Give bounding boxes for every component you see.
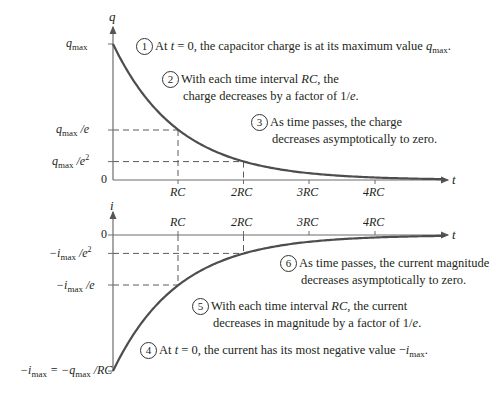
ytick-neg-imax: −imax = −qmax /RC <box>20 364 112 378</box>
xtick-3rc-top: 3RC <box>297 186 318 199</box>
xtick-4rc-bottom: 4RC <box>363 216 384 229</box>
xtick-rc-top: RC <box>170 186 185 199</box>
xtick-3rc-bottom: 3RC <box>297 216 318 229</box>
xtick-2rc-top: 2RC <box>231 186 252 199</box>
charge-curve <box>113 44 445 179</box>
step-3-badge: 3 <box>251 114 268 131</box>
ytick-neg-imax-over-e: −imax /e <box>56 279 95 293</box>
step-6-badge: 6 <box>280 255 297 272</box>
t-axis-label-bottom: t <box>452 228 456 241</box>
note-6: 6As time passes, the current magnitude d… <box>280 256 489 287</box>
diagram-canvas <box>0 0 494 399</box>
xtick-4rc-top: 4RC <box>363 186 384 199</box>
ytick-qmax: qmax <box>66 37 88 51</box>
i-axis-label: i <box>110 199 114 212</box>
ytick-zero-bottom: 0 <box>101 228 107 241</box>
step-5-badge: 5 <box>192 298 209 315</box>
ytick-qmax-over-e2: qmax /e2 <box>52 155 89 169</box>
ytick-qmax-over-e: qmax /e <box>56 123 89 137</box>
top-y-ticks <box>108 44 113 162</box>
step-1-badge: 1 <box>136 38 153 55</box>
step-2-badge: 2 <box>162 71 179 88</box>
note-5: 5With each time interval RC, the current… <box>192 299 421 330</box>
q-axis-label: q <box>109 10 116 23</box>
note-2: 2With each time interval RC, the charge … <box>162 72 359 103</box>
ytick-neg-imax-over-e2: −imax /e2 <box>49 247 92 261</box>
step-4-badge: 4 <box>140 342 157 359</box>
note-1: 1At t = 0, the capacitor charge is at it… <box>136 39 451 56</box>
t-axis-label-top: t <box>452 173 456 186</box>
bottom-y-ticks <box>108 235 113 371</box>
xtick-rc-bottom: RC <box>170 216 185 229</box>
ytick-zero-top: 0 <box>101 173 107 186</box>
xtick-2rc-bottom: 2RC <box>231 216 252 229</box>
note-4: 4At t = 0, the current has its most nega… <box>140 343 428 360</box>
note-3: 3As time passes, the charge decreases as… <box>251 115 437 146</box>
